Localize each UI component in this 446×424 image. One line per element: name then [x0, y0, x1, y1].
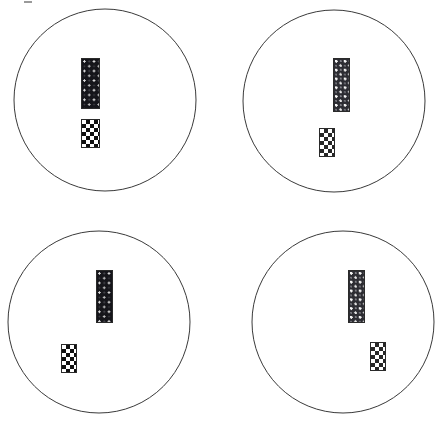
panel-top-left	[0, 0, 223, 212]
panel-circle-outline	[0, 0, 223, 212]
panel-top-right-checker-bar	[319, 128, 335, 157]
panel-top-right-tall-bar	[333, 58, 350, 112]
panel-bottom-right-checker-bar	[370, 342, 386, 371]
top-tick	[24, 1, 32, 3]
panel-bottom-right	[223, 212, 446, 424]
panel-bottom-left	[0, 212, 223, 424]
aperture-circle	[14, 9, 196, 191]
panel-top-right	[223, 0, 446, 212]
panel-top-left-checker-bar	[81, 119, 100, 148]
aperture-circle	[252, 231, 434, 413]
panel-top-left-tall-bar	[81, 58, 100, 109]
panel-bottom-left-checker-bar	[61, 344, 77, 373]
panel-circle-outline	[223, 212, 446, 424]
stimulus-canvas	[0, 0, 446, 424]
panel-bottom-right-tall-bar	[348, 270, 365, 323]
panel-bottom-left-tall-bar	[96, 270, 113, 323]
